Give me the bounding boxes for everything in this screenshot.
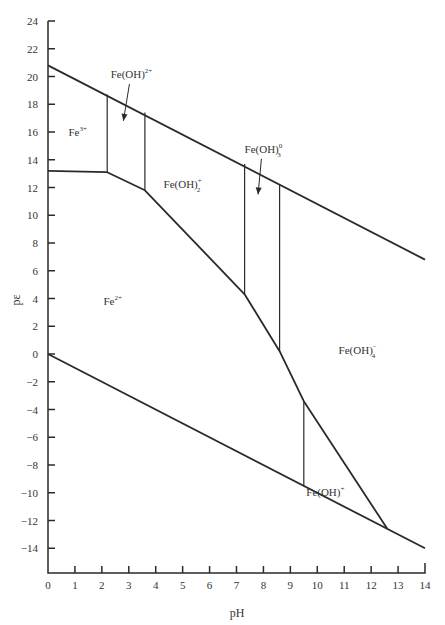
- x-axis-ticks: 01234567891011121314: [45, 566, 431, 591]
- phase-boundary-line: [48, 171, 387, 529]
- x-tick-label: 11: [339, 579, 350, 591]
- x-axis-title: pH: [230, 606, 245, 620]
- y-tick-label: 8: [33, 237, 39, 249]
- x-tick-label: 5: [180, 579, 186, 591]
- pe-ph-diagram: 242220181614121086420−2−4−6−8−10−12−14 0…: [0, 0, 445, 625]
- y-tick-label: 4: [33, 293, 39, 305]
- arrowhead-icon: [122, 114, 128, 121]
- x-tick-label: 8: [261, 579, 267, 591]
- x-tick-label: 12: [366, 579, 377, 591]
- region-labels: Fe3+Fe(OH)2+Fe(OH)+2Fe(OH)03Fe2+Fe(OH)−4…: [68, 67, 376, 499]
- x-tick-label: 10: [312, 579, 324, 591]
- y-tick-label: −10: [21, 487, 39, 499]
- x-tick-label: 4: [153, 579, 159, 591]
- y-tick-label: −14: [21, 542, 39, 554]
- x-tick-label: 6: [207, 579, 213, 591]
- region-label: Fe(OH)03: [245, 142, 283, 159]
- region-label: Fe(OH)−4: [339, 343, 377, 360]
- region-label: Fe3+: [68, 125, 87, 138]
- region-label: Fe(OH)+: [306, 485, 344, 499]
- region-label: Fe2+: [103, 294, 122, 307]
- region-label: Fe(OH)+2: [164, 177, 202, 194]
- y-tick-label: 0: [33, 348, 39, 360]
- y-tick-label: 18: [27, 98, 39, 110]
- y-tick-label: 14: [27, 154, 39, 166]
- y-axis-title: pε: [9, 294, 23, 305]
- y-tick-label: 24: [27, 15, 39, 27]
- x-tick-label: 3: [126, 579, 132, 591]
- y-tick-label: −6: [26, 431, 38, 443]
- phase-boundary-line: [48, 65, 425, 259]
- y-tick-label: 20: [27, 71, 39, 83]
- x-tick-label: 2: [99, 579, 105, 591]
- x-tick-label: 14: [420, 579, 432, 591]
- y-tick-label: −12: [21, 515, 38, 527]
- y-tick-label: −4: [26, 404, 38, 416]
- y-tick-label: 16: [27, 126, 39, 138]
- x-tick-label: 1: [72, 579, 78, 591]
- y-tick-label: 6: [33, 265, 39, 277]
- x-tick-label: 0: [45, 579, 51, 591]
- region-label: Fe(OH)2+: [111, 67, 153, 81]
- y-axis-ticks: 242220181614121086420−2−4−6−8−10−12−14: [21, 15, 55, 554]
- phase-boundary-line: [48, 354, 425, 548]
- arrowhead-icon: [256, 187, 262, 194]
- x-tick-label: 9: [288, 579, 294, 591]
- y-tick-label: 12: [27, 182, 38, 194]
- x-tick-label: 7: [234, 579, 240, 591]
- x-tick-label: 13: [393, 579, 405, 591]
- y-tick-label: 2: [33, 320, 39, 332]
- y-tick-label: 10: [27, 209, 39, 221]
- y-tick-label: −2: [26, 376, 38, 388]
- y-tick-label: −8: [26, 459, 38, 471]
- y-tick-label: 22: [27, 43, 38, 55]
